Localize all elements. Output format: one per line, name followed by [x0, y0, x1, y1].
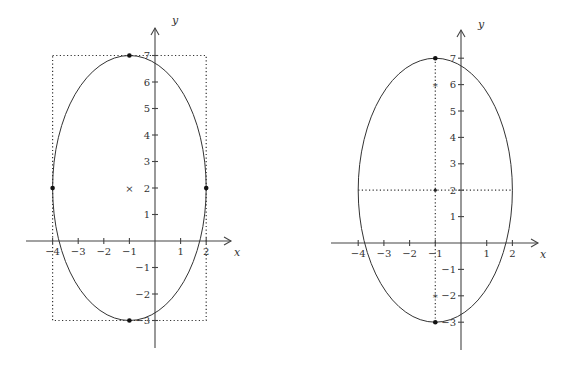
y-tick-label: 4: [450, 132, 456, 143]
vertex-point: [127, 318, 132, 323]
figure: xy−4−3−2−112−3−2−11234567× xy−4−3−2−112−…: [0, 0, 572, 365]
focus-marker: *: [433, 292, 438, 303]
x-axis-label: x: [234, 246, 241, 259]
x-tick-label: 2: [203, 246, 209, 257]
vertex-point: [433, 56, 438, 61]
y-tick-label: 5: [450, 106, 456, 117]
x-tick-label: −2: [96, 246, 111, 257]
vertex-point: [433, 320, 438, 325]
x-tick-label: −2: [402, 248, 417, 259]
x-tick-label: −1: [122, 246, 137, 257]
vertex-point: [127, 53, 132, 58]
y-tick-label: −2: [441, 290, 456, 301]
x-tick-label: −1: [428, 248, 443, 259]
y-tick-label: 2: [144, 183, 150, 194]
y-tick-label: 4: [144, 130, 150, 141]
x-tick-label: 2: [509, 248, 515, 259]
x-tick-label: −3: [377, 248, 392, 259]
x-axis-label: x: [540, 248, 547, 261]
y-tick-label: 2: [450, 185, 456, 196]
x-tick-label: −4: [45, 246, 60, 257]
vertex-point: [50, 186, 55, 191]
center-marker: [434, 189, 437, 192]
y-axis-label: y: [477, 18, 485, 31]
x-tick-label: 1: [484, 248, 490, 259]
y-tick-label: 5: [144, 103, 150, 114]
y-tick-label: 1: [450, 211, 456, 222]
x-tick-label: −4: [351, 248, 366, 259]
vertex-point: [204, 186, 209, 191]
y-tick-label: 1: [144, 209, 150, 220]
y-tick-label: −1: [135, 262, 150, 273]
x-tick-label: −3: [71, 246, 86, 257]
y-tick-label: −2: [135, 289, 150, 300]
y-tick-label: 3: [450, 158, 456, 169]
center-marker: ×: [125, 183, 133, 194]
y-tick-label: 3: [144, 156, 150, 167]
y-tick-label: 6: [144, 77, 150, 88]
focus-marker: *: [433, 81, 438, 92]
left-plot: xy−4−3−2−112−3−2−11234567×: [26, 14, 241, 348]
y-tick-label: −1: [441, 264, 456, 275]
x-tick-label: 1: [177, 246, 183, 257]
y-axis-label: y: [171, 14, 179, 27]
right-plot: xy−4−3−2−112−3−2−11234567**: [331, 18, 547, 350]
y-tick-label: 6: [450, 79, 456, 90]
